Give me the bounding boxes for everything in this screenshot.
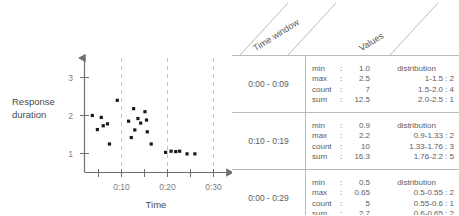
data-point xyxy=(139,122,142,125)
y-axis-label-line2: duration xyxy=(12,109,46,120)
summary-table-region: Time window Values 0:00 - 0:09min:1.0dis… xyxy=(232,0,459,215)
distribution-bin: 2.0-2.5: 1 xyxy=(374,95,459,104)
data-point xyxy=(127,120,130,123)
diagonal-right xyxy=(390,3,438,55)
data-point xyxy=(91,114,94,117)
data-point xyxy=(102,124,105,127)
stat-value: 1.0 xyxy=(344,64,374,73)
time-window-cell: 0:00 - 0:09 xyxy=(232,56,306,113)
data-point xyxy=(193,152,196,155)
stat-value: 2.5 xyxy=(344,74,374,83)
data-point xyxy=(100,116,103,119)
data-point xyxy=(132,107,135,110)
stat-value: 0.9 xyxy=(344,121,374,130)
distribution-count-value: 2 xyxy=(449,131,453,140)
stat-key: count xyxy=(312,85,338,94)
distribution-count-value: 1 xyxy=(449,95,453,104)
distribution-bin: 0.6-0.65: 2 xyxy=(374,209,459,215)
distribution-range: 1.5-2.0 xyxy=(374,85,443,94)
data-point xyxy=(130,136,133,139)
distribution-label: distribution xyxy=(374,178,459,187)
data-point xyxy=(136,117,139,120)
distribution-count: : 2 xyxy=(445,74,459,83)
distribution-bin: 0.5-0.55: 2 xyxy=(374,188,459,197)
distribution-label: distribution xyxy=(374,64,459,73)
data-point xyxy=(143,110,146,113)
data-point xyxy=(145,118,148,121)
y-tick-label-1: 1 xyxy=(68,149,73,159)
distribution-range: 1-1.5 xyxy=(374,74,443,83)
distribution-count: : 1 xyxy=(445,199,459,208)
stat-key: min xyxy=(312,121,338,130)
data-point xyxy=(164,151,167,154)
data-point xyxy=(174,150,177,153)
stat-value: 10 xyxy=(344,142,374,151)
stat-value: 0.5 xyxy=(344,178,374,187)
x-tick-label-0-30: 0:30 xyxy=(205,182,222,192)
scatter-plot: 1 2 3 0:10 0:20 0:30 Response duration T… xyxy=(0,0,232,215)
distribution-count-value: 4 xyxy=(449,85,453,94)
stat-value: 12.5 xyxy=(344,95,374,104)
distribution-label: distribution xyxy=(374,121,459,130)
distribution-count: : 2 xyxy=(445,131,459,140)
stat-key: sum xyxy=(312,95,338,104)
x-axis-label: Time xyxy=(146,199,167,210)
distribution-count: : 5 xyxy=(445,152,459,161)
y-axis-label-line1: Response xyxy=(12,96,55,107)
table-row: 0:00 - 0:09min:1.0distributionmax:2.51-1… xyxy=(232,56,459,113)
distribution-count-value: 5 xyxy=(449,152,453,161)
slanted-headers: Time window Values xyxy=(232,0,459,55)
distribution-bin: 0.9-1.33: 2 xyxy=(374,131,459,140)
y-tick-label-3: 3 xyxy=(68,73,73,83)
time-window-cell: 0:10 - 0:19 xyxy=(232,113,306,170)
time-window-cell: 0:00 - 0:29 xyxy=(232,170,306,216)
stat-key: min xyxy=(312,64,338,73)
stat-key: max xyxy=(312,74,338,83)
data-point xyxy=(150,142,153,145)
stat-key: min xyxy=(312,178,338,187)
stat-value: 2.7 xyxy=(344,209,374,215)
distribution-count: : 2 xyxy=(445,209,459,215)
data-point xyxy=(108,142,111,145)
stat-value: 5 xyxy=(344,199,374,208)
data-point xyxy=(178,150,181,153)
stat-value: 0.65 xyxy=(344,188,374,197)
distribution-range: 2.0-2.5 xyxy=(374,95,443,104)
values-cell: min:1.0distributionmax:2.51-1.5: 2count:… xyxy=(306,56,459,113)
distribution-count-value: 2 xyxy=(449,188,453,197)
distribution-count-value: 1 xyxy=(449,199,453,208)
data-point xyxy=(185,152,188,155)
plot-canvas: 1 2 3 0:10 0:20 0:30 Response duration T… xyxy=(0,0,232,215)
x-tick-label-0-10: 0:10 xyxy=(113,182,130,192)
distribution-range: 0.5-0.55 xyxy=(374,188,443,197)
y-ticks: 1 2 3 xyxy=(68,73,89,159)
data-point xyxy=(133,128,136,131)
stat-key: max xyxy=(312,131,338,140)
values-cell: min:0.9distributionmax:2.20.9-1.33: 2cou… xyxy=(306,113,459,170)
stat-key: max xyxy=(312,188,338,197)
header-diagonals xyxy=(232,0,459,56)
stat-key: count xyxy=(312,199,338,208)
distribution-count-value: 2 xyxy=(449,209,453,215)
distribution-bin: 1-1.5: 2 xyxy=(374,74,459,83)
y-tick-label-2: 2 xyxy=(68,111,73,121)
values-cell: min:0.5distributionmax:0.650.5-0.55: 2co… xyxy=(306,170,459,216)
distribution-count: : 4 xyxy=(445,85,459,94)
distribution-bin: 1.5-2.0: 4 xyxy=(374,85,459,94)
table-row: 0:00 - 0:29min:0.5distributionmax:0.650.… xyxy=(232,170,459,216)
stat-value: 2.2 xyxy=(344,131,374,140)
stat-value: 16.3 xyxy=(344,152,374,161)
stat-key: count xyxy=(312,142,338,151)
data-point xyxy=(116,99,119,102)
distribution-count-value: 2 xyxy=(449,74,453,83)
distribution-range: 1.76-2.2 xyxy=(374,152,443,161)
data-point xyxy=(169,150,172,153)
distribution-bin: 1.33-1.76: 3 xyxy=(374,142,459,151)
data-point xyxy=(146,130,149,133)
data-points xyxy=(91,99,197,156)
distribution-range: 1.33-1.76 xyxy=(374,142,443,151)
distribution-bin: 0.55-0.6: 1 xyxy=(374,199,459,208)
distribution-range: 0.6-0.65 xyxy=(374,209,443,215)
stats-table: 0:00 - 0:09min:1.0distributionmax:2.51-1… xyxy=(232,55,459,215)
stat-key: sum xyxy=(312,209,338,215)
